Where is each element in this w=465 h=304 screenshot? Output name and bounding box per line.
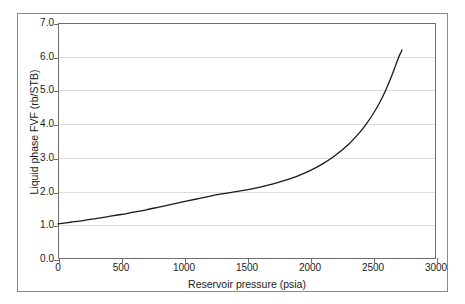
- x-tick-label: 3000: [425, 262, 447, 274]
- x-tick-label: 1000: [173, 262, 195, 274]
- curve-path: [58, 50, 402, 224]
- liquid-phase-fvf-curve: [58, 23, 436, 259]
- x-axis-title: Reservoir pressure (psia): [58, 278, 436, 290]
- plot-area: [58, 23, 436, 259]
- y-tick-label: 0.0: [20, 254, 54, 264]
- y-axis-title: Liquid phase FVF (rb/STB): [28, 32, 40, 232]
- x-tick-label: 500: [113, 262, 130, 274]
- x-tick-label: 1500: [236, 262, 258, 274]
- x-axis-tick-labels: 050010001500200025003000: [58, 262, 436, 276]
- y-tick-label: 7.0: [20, 18, 54, 28]
- x-tick-label: 2500: [362, 262, 384, 274]
- x-tick-label: 2000: [299, 262, 321, 274]
- x-tick-label: 0: [55, 262, 61, 274]
- chart-figure: 0.01.02.03.04.05.06.07.0 050010001500200…: [17, 13, 448, 292]
